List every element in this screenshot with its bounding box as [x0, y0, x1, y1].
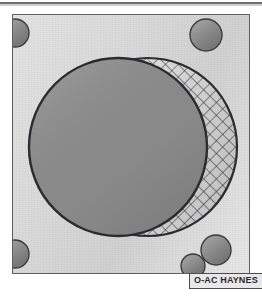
figure-canvas: O-AC HAYNES: [0, 0, 262, 298]
bolt-hole-bottom-left: [1, 240, 29, 268]
part-label: O-AC HAYNES: [189, 273, 262, 289]
bolt-hole-top-right: [190, 19, 222, 51]
bolt-hole-top-left: [1, 19, 29, 47]
part-label-text: O-AC HAYNES: [194, 275, 258, 286]
primary-disc: [29, 58, 207, 236]
drawing-overlay: [0, 0, 262, 298]
bolt-hole-bottom-right: [201, 235, 231, 265]
